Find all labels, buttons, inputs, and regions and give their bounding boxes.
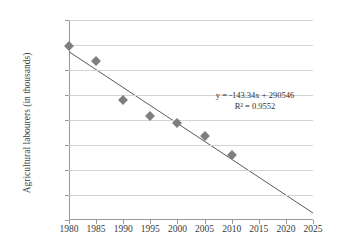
trendline-r2-text: R² = 0.9552 [196,101,314,112]
scatter-chart: Agricultural labourers (in thousands) 01… [0,0,338,250]
gridline-y [69,70,313,71]
x-tick-label: 2025 [293,224,333,234]
y-tick-mark [65,145,69,146]
y-tick-mark [65,95,69,96]
trendline-equation-annotation: y = -143.34x + 290546 R² = 0.9552 [196,90,314,112]
y-tick-mark [65,195,69,196]
gridline-y [69,120,313,121]
trendline-equation-text: y = -143.34x + 290546 [196,90,314,101]
y-tick-mark [65,170,69,171]
y-tick-mark [65,20,69,21]
y-tick-mark [65,120,69,121]
y-axis-title: Agricultural labourers (in thousands) [22,23,32,223]
y-tick-mark [65,70,69,71]
gridline-y [69,20,313,21]
gridline-y [69,145,313,146]
gridline-y [69,45,313,46]
gridline-y [69,170,313,171]
trendline-segment [69,52,313,213]
plot-area: 01,0002,0003,0004,0005,0006,0007,0008,00… [69,20,313,220]
gridline-y [69,195,313,196]
